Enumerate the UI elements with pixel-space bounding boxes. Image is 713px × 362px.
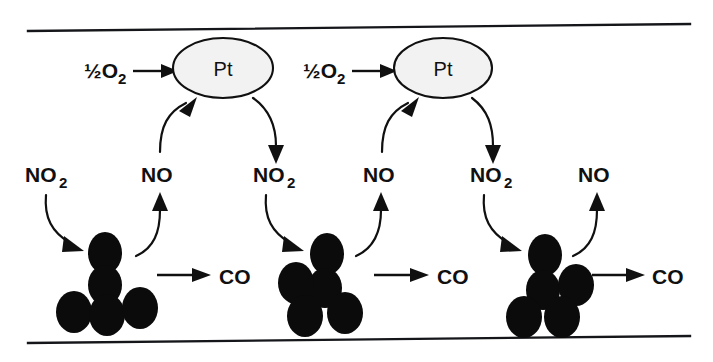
no2-label-3: NO 2: [470, 163, 513, 191]
o2-to-pt-arrow-2: [352, 64, 397, 78]
soot-to-no-curve-3: [573, 192, 605, 256]
soot-to-co-arrow-1: [157, 268, 211, 282]
no-to-pt-curve-2: [382, 97, 419, 152]
soot-to-no-curve-2: [356, 192, 389, 256]
half-o2-input-1: ½O 2: [84, 59, 127, 87]
co-product-2: CO: [437, 265, 469, 288]
half-o2-input-2-base: ½O: [303, 59, 337, 82]
soot-to-co-arrow-3: [592, 268, 645, 282]
no-label-3-base: NO: [578, 163, 610, 186]
o2-to-pt-arrow-1: [133, 64, 178, 78]
half-o2-input-1-base: ½O: [84, 59, 118, 82]
soot-to-co-arrow-2: [374, 268, 429, 282]
co-product-3: CO: [652, 265, 684, 288]
upper-rail: [28, 24, 690, 31]
no2-label-2-base: NO: [253, 163, 285, 186]
pt-catalyst-2: Pt: [394, 38, 492, 98]
half-o2-input-2: ½O 2: [303, 59, 346, 87]
pt-catalyst-2-label: Pt: [434, 58, 453, 80]
no-label-3: NO: [578, 163, 610, 186]
no2-label-1-base: NO: [25, 163, 57, 186]
reaction-diagram: ½O 2 Pt NO 2 NO NO: [0, 0, 713, 362]
pt-to-no2-curve-1: [253, 98, 284, 164]
no2-to-soot-curve-2: [266, 195, 304, 252]
no-label-2-base: NO: [363, 163, 395, 186]
diagram-canvas: ½O 2 Pt NO 2 NO NO: [0, 0, 713, 362]
half-o2-input-2-sub: 2: [337, 70, 346, 87]
no-label-2: NO: [363, 163, 395, 186]
half-o2-input-1-sub: 2: [118, 70, 127, 87]
no2-label-2: NO 2: [253, 163, 296, 191]
no-label-1: NO: [141, 163, 173, 186]
pt-catalyst-1: Pt: [173, 38, 273, 98]
no2-to-soot-curve-1: [46, 195, 84, 252]
no-to-pt-curve-1: [160, 97, 197, 152]
no-label-1-base: NO: [141, 163, 173, 186]
lower-rail: [28, 336, 690, 343]
no2-label-1-sub: 2: [59, 174, 68, 191]
co-product-1: CO: [219, 265, 251, 288]
no2-label-3-base: NO: [470, 163, 502, 186]
pt-to-no2-curve-2: [472, 98, 501, 164]
no2-label-1: NO 2: [25, 163, 68, 191]
no2-label-2-sub: 2: [287, 174, 296, 191]
pt-catalyst-1-label: Pt: [214, 58, 233, 80]
soot-to-no-curve-1: [136, 192, 168, 256]
no2-to-soot-curve-3: [484, 195, 522, 252]
no2-label-3-sub: 2: [504, 174, 513, 191]
